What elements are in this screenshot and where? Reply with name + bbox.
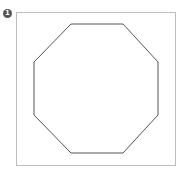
octagon-shape (34, 24, 158, 153)
octagon-diagram (0, 0, 186, 174)
